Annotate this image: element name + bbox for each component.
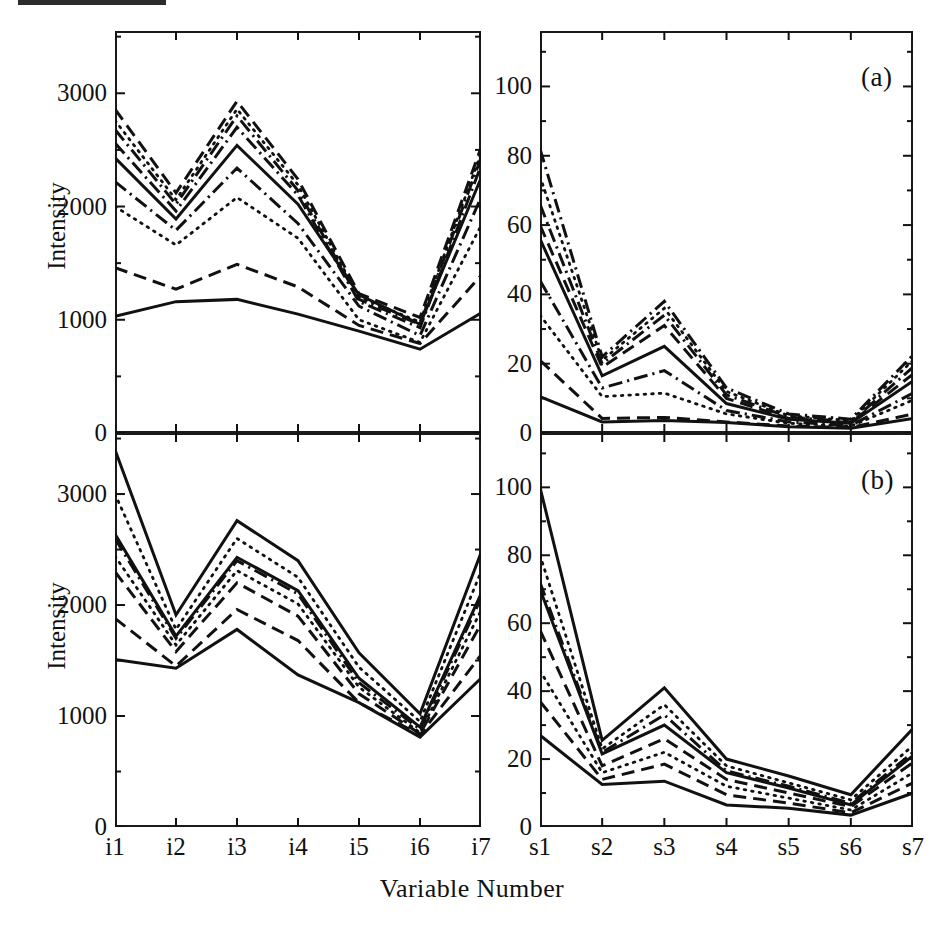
x-tick-label: s2 [572,834,632,859]
y-tick-label: 80 [432,143,532,168]
y-axis-title-top: Intensity [43,146,71,306]
y-tick-label: 0 [432,420,532,445]
x-tick-label: s5 [759,834,819,859]
data-series-line [115,197,481,342]
data-series-line [540,177,913,421]
x-tick-label: i4 [268,834,328,859]
y-tick-label: 1000 [7,703,107,728]
data-series-line [115,101,481,317]
data-series-line [115,116,481,324]
panel-bottom-right [540,433,913,827]
x-tick-label: s3 [634,834,694,859]
panel-bottom-left [115,433,481,827]
data-series-line [540,487,913,794]
x-tick-label: s1 [510,834,570,859]
x-tick-label: i2 [146,834,206,859]
panel-top-right-plot [540,31,913,433]
x-tick-label: s4 [697,834,757,859]
y-tick-label: 20 [432,746,532,771]
y-tick-label: 3000 [7,80,107,105]
panel-top-left-plot [115,31,481,433]
x-tick-label: i3 [207,834,267,859]
y-axis-title-bottom: Intensity [43,546,71,706]
page-edge-artifact [18,0,166,5]
panel-tag-a: (a) [861,62,892,93]
y-tick-label: 40 [432,678,532,703]
data-series-line [115,109,481,322]
x-tick-label: s6 [821,834,881,859]
y-tick-label: 60 [432,212,532,237]
data-series-line [115,494,481,722]
y-tick-label: 2000 [7,194,107,219]
y-tick-label: 100 [432,474,532,499]
y-tick-label: 80 [432,542,532,567]
panel-bottom-right-plot [540,433,913,827]
y-tick-label: 1000 [7,307,107,332]
y-tick-label: 2000 [7,592,107,617]
panel-top-left [115,31,481,433]
y-tick-label: 20 [432,351,532,376]
panel-tag-b: (b) [861,465,894,496]
y-tick-label: 60 [432,610,532,635]
x-tick-label: i1 [85,834,145,859]
y-tick-label: 0 [7,420,107,445]
y-tick-label: 100 [432,73,532,98]
x-axis-title: Variable Number [272,874,672,904]
panel-top-right [540,31,913,433]
y-tick-label: 40 [432,281,532,306]
y-tick-label: 3000 [7,481,107,506]
x-tick-label: s7 [883,834,943,859]
x-tick-label: i5 [329,834,389,859]
figure-root: (a) (b) Intensity Intensity Variable Num… [0,0,944,932]
panel-bottom-left-plot [115,433,481,827]
